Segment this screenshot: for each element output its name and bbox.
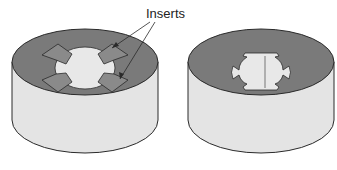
left-hole-slot xyxy=(73,52,96,86)
die-without-inserts xyxy=(188,29,334,153)
inserts-label: Inserts xyxy=(146,6,185,21)
diagram-canvas xyxy=(0,0,337,170)
die-with-inserts xyxy=(12,22,158,153)
